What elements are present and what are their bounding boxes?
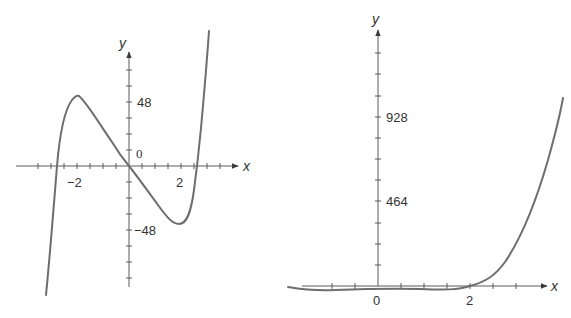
right-curve [288, 98, 563, 290]
left-x-axis-label: x [242, 158, 251, 174]
left-y-tick-neg48: −48 [134, 223, 156, 238]
right-x-axis-label: x [550, 278, 559, 294]
left-origin-label: 0 [136, 146, 143, 161]
left-x-tick-neg2: −2 [67, 175, 82, 190]
right-y-tick-464: 464 [386, 194, 408, 209]
right-x-tick-2: 2 [466, 293, 473, 308]
left-y-tick-48: 48 [137, 95, 151, 110]
left-chart: y x 0 −2 2 48 −48 [16, 31, 251, 295]
left-x-tick-pos2: 2 [176, 175, 183, 190]
right-y-axis-label: y [371, 11, 380, 27]
left-curve [46, 31, 209, 295]
right-chart: y x 0 2 928 464 [288, 11, 563, 308]
right-y-tick-928: 928 [386, 110, 408, 125]
figure: y x 0 −2 2 48 −48 [0, 0, 571, 318]
right-x-tick-0: 0 [373, 293, 380, 308]
left-y-axis-label: y [118, 35, 127, 51]
